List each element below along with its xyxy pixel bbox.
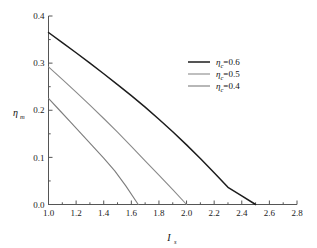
x-tick-label: 2.6 [264, 208, 276, 218]
line-chart: 1.01.21.41.61.82.02.22.42.62.8 0.00.10.2… [0, 0, 317, 248]
figure-caption-fragment [36, 0, 286, 8]
y-tick-label: 0.3 [33, 58, 45, 68]
y-tick-label: 0.0 [33, 200, 45, 210]
legend-label: ηc=0.4 [216, 81, 240, 92]
legend-eta-value: =0.6 [223, 57, 240, 67]
legend-eta-value: =0.5 [223, 69, 240, 79]
y-tick-label: 0.1 [33, 153, 44, 163]
x-tick-label: 1.4 [98, 208, 110, 218]
x-tick-label: 2.8 [291, 208, 303, 218]
y-tick-label: 0.2 [33, 105, 44, 115]
legend-label: ηc=0.5 [216, 69, 240, 80]
x-tick-label: 1.2 [70, 208, 81, 218]
y-axis-title-symbol: η [13, 107, 18, 118]
x-tick-label: 1.8 [153, 208, 165, 218]
x-tick-label: 1.6 [126, 208, 138, 218]
y-axis-title-subscript: m [20, 113, 25, 120]
x-tick-label: 2.4 [236, 208, 248, 218]
x-tick-label: 2.0 [181, 208, 193, 218]
figure-container: 1.01.21.41.61.82.02.22.42.62.8 0.00.10.2… [0, 0, 317, 248]
x-tick-label: 1.0 [43, 208, 55, 218]
x-tick-label: 2.2 [209, 208, 220, 218]
legend-label: ηc=0.6 [216, 57, 240, 68]
x-axis-title-symbol: I [166, 232, 171, 243]
legend-eta-value: =0.4 [223, 81, 240, 91]
y-tick-label: 0.4 [33, 11, 45, 21]
